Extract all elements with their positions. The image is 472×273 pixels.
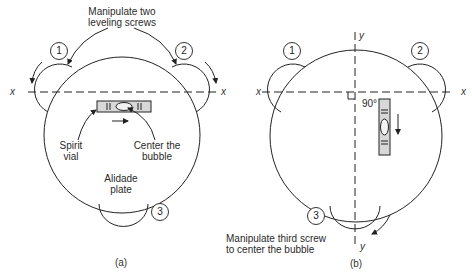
rotate-arrow-right bbox=[205, 62, 216, 83]
panel-a-title-line1: Manipulate two bbox=[86, 6, 158, 17]
screw-1-lobe bbox=[35, 64, 72, 112]
panel-b bbox=[262, 32, 452, 248]
alidade-plate-label-line2: plate bbox=[101, 184, 141, 195]
alidade-plate-circle bbox=[270, 50, 442, 222]
screw-3-lobe bbox=[99, 204, 148, 226]
bubble bbox=[381, 119, 389, 135]
leader-center-bubble bbox=[128, 108, 155, 140]
leader-title-screw1 bbox=[68, 28, 108, 64]
spirit-vial-label-line1: Spirit bbox=[56, 140, 86, 151]
screw-label-1: 1 bbox=[283, 42, 301, 60]
screw-label-1: 1 bbox=[50, 42, 68, 60]
x-axis-label-right: x bbox=[221, 86, 226, 97]
screw-label-3: 3 bbox=[151, 203, 169, 221]
y-axis-label-top: y bbox=[359, 30, 364, 41]
center-bubble-label-line1: Center the bbox=[132, 140, 182, 151]
x-axis-label-right: x bbox=[461, 86, 466, 97]
panel-a-caption: (a) bbox=[111, 257, 131, 268]
panel-b-caption: (b) bbox=[346, 258, 366, 269]
screw-2-lobe bbox=[172, 64, 210, 112]
angle-label: 90° bbox=[362, 98, 377, 109]
screw-label-2: 2 bbox=[411, 42, 429, 60]
x-axis-label-left: x bbox=[256, 86, 261, 97]
instruction-line1: Manipulate third screw bbox=[226, 233, 326, 244]
spirit-vial-label-line2: vial bbox=[56, 151, 86, 162]
leader-spirit-vial bbox=[78, 110, 96, 140]
screw-2-lobe bbox=[408, 64, 446, 112]
right-angle-mark bbox=[348, 92, 355, 99]
panel-a-title-line2: leveling screws bbox=[86, 17, 158, 28]
alidade-plate-label-line1: Alidade bbox=[101, 173, 141, 184]
x-axis-label-left: x bbox=[10, 86, 15, 97]
center-bubble-label-line2: bubble bbox=[132, 151, 182, 162]
screw-label-2: 2 bbox=[175, 42, 193, 60]
y-axis-label-bottom: y bbox=[360, 241, 365, 252]
leader-title-screw2 bbox=[134, 28, 176, 64]
screw-label-3: 3 bbox=[307, 207, 325, 225]
instruction-line2: to center the bubble bbox=[226, 244, 314, 255]
